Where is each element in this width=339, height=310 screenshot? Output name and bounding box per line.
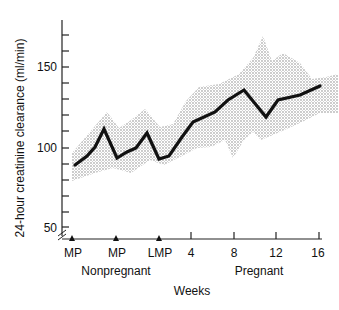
x-tick-12: 12 bbox=[269, 246, 283, 260]
x-tick-lmp: LMP bbox=[148, 246, 173, 260]
y-axis-title: 24-hour creatinine clearance (ml/min) bbox=[13, 39, 27, 238]
y-tick-50: 50 bbox=[44, 221, 58, 235]
x-tick-4: 4 bbox=[188, 246, 195, 260]
x-tick-16: 16 bbox=[311, 246, 325, 260]
y-tick-100: 100 bbox=[37, 141, 57, 155]
group-label-nonpregnant: Nonpregnant bbox=[81, 264, 151, 278]
x-tick-mp1: MP bbox=[64, 246, 82, 260]
x-tick-mp2: MP bbox=[108, 246, 126, 260]
marker-lmp-triangle-icon bbox=[156, 235, 162, 241]
group-label-pregnant: Pregnant bbox=[235, 264, 284, 278]
marker-mp1-triangle-icon bbox=[69, 235, 75, 241]
x-axis-title: Weeks bbox=[174, 284, 210, 298]
marker-mp2-triangle-icon bbox=[113, 235, 119, 241]
x-markers bbox=[69, 235, 162, 241]
x-axis bbox=[62, 232, 322, 239]
y-axis bbox=[58, 20, 69, 240]
range-band bbox=[72, 36, 338, 181]
creatinine-clearance-chart: 150 100 50 MP MP LMP 4 8 12 16 Nonpregna… bbox=[0, 0, 339, 310]
x-tick-8: 8 bbox=[231, 246, 238, 260]
y-tick-150: 150 bbox=[37, 60, 57, 74]
